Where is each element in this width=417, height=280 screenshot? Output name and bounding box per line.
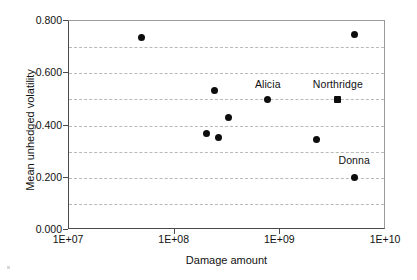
gridline: [69, 73, 384, 74]
data-point: [215, 134, 222, 141]
data-point: [211, 87, 218, 94]
y-tick-label: 0.800: [18, 14, 62, 26]
data-point: [334, 96, 341, 103]
x-tick-label: 1E+10: [370, 233, 401, 245]
plot-area: AliciaNorthridgeDonna: [68, 20, 385, 229]
x-tick-mark: [174, 229, 175, 234]
y-tick-label: 0.400: [18, 119, 62, 131]
y-tick-label: 0.200: [18, 171, 62, 183]
x-tick-label: 1E+09: [264, 233, 295, 245]
x-tick-label: 1E+08: [158, 233, 189, 245]
point-label: Northridge: [313, 78, 363, 90]
x-tick-label: 1E+07: [53, 233, 84, 245]
data-point: [203, 130, 210, 137]
data-point: [313, 136, 320, 143]
point-label: Donna: [338, 154, 369, 166]
gridline: [69, 126, 384, 127]
gridline: [69, 178, 384, 179]
data-point: [351, 174, 358, 181]
y-tick-mark: [63, 229, 68, 230]
data-point: [225, 114, 232, 121]
data-point: [351, 31, 358, 38]
scatter-chart-figure: Mean unhedged volatility 0.0000.2000.400…: [0, 0, 417, 280]
data-point: [138, 34, 145, 41]
y-tick-label: 0.600: [18, 66, 62, 78]
gridline: [69, 47, 384, 48]
gridline: [69, 152, 384, 153]
x-tick-mark: [279, 229, 280, 234]
point-label: Alicia: [255, 78, 281, 90]
gridline: [69, 204, 384, 205]
data-point: [264, 96, 271, 103]
scan-artifact: [7, 266, 10, 269]
x-axis-title: Damage amount: [68, 254, 385, 266]
